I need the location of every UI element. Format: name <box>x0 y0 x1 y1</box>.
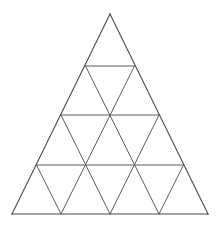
triangular-grid-figure <box>0 0 222 229</box>
